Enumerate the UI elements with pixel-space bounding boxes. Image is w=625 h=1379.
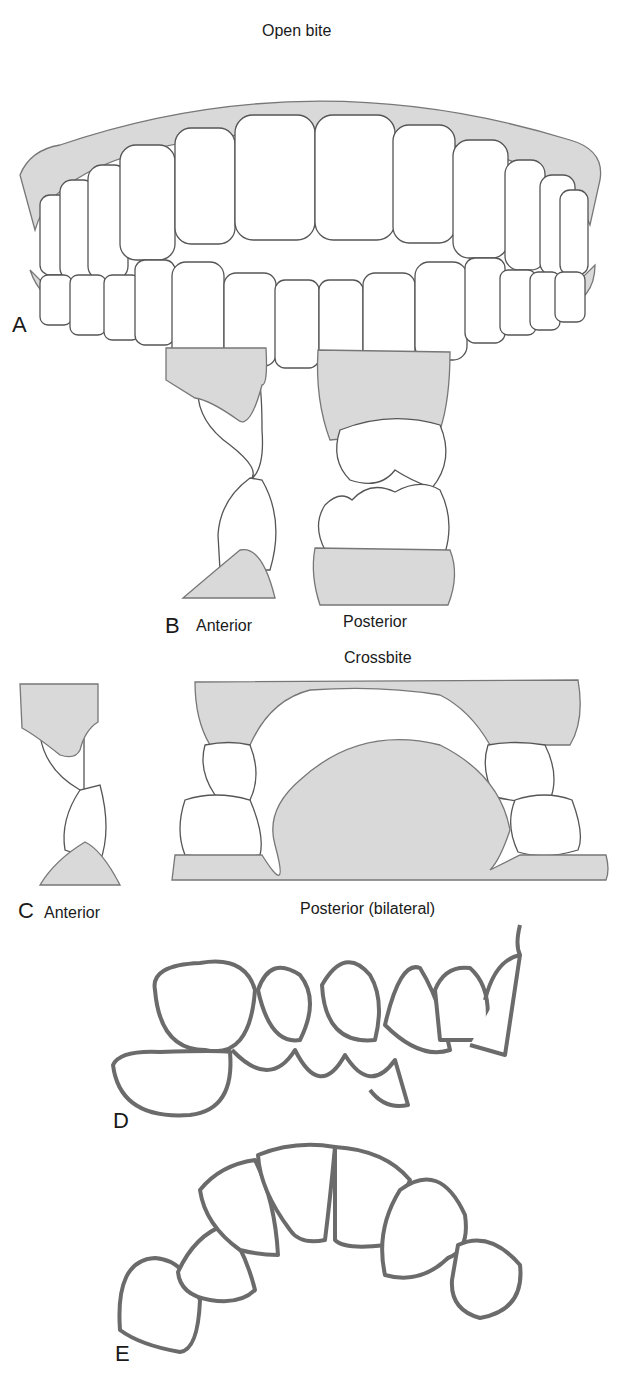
panel-letter-e: E (115, 1341, 130, 1367)
caption-crossbite: Crossbite (344, 649, 412, 667)
caption-b-posterior: Posterior (343, 613, 407, 631)
panel-b-posterior (313, 350, 454, 605)
caption-c-posterior: Posterior (bilateral) (300, 900, 435, 918)
panel-e-arch (119, 1145, 520, 1352)
panel-letter-c: C (18, 898, 34, 924)
panel-d-lateral (113, 925, 520, 1115)
panel-letter-d: D (113, 1108, 129, 1134)
panel-c-anterior (20, 684, 120, 885)
caption-b-anterior: Anterior (196, 617, 252, 635)
panel-a-frontal-dentition (20, 101, 601, 368)
panel-letter-b: B (165, 613, 180, 639)
panel-b-anterior (166, 348, 276, 598)
dental-diagram (0, 0, 625, 1379)
panel-c-posterior-bilateral (172, 680, 608, 880)
caption-c-anterior: Anterior (44, 904, 100, 922)
panel-letter-a: A (12, 312, 27, 338)
